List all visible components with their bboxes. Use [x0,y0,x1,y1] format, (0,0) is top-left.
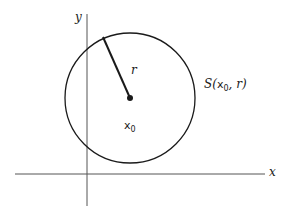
diagram-svg [0,0,288,216]
center-label-sub: 0 [131,125,136,134]
center-label: x0 [124,116,136,132]
circle-label: S(x0, r) [204,78,247,90]
center-label-var: x [124,119,131,132]
circle-label-suffix: , r) [229,77,247,91]
radius-label: r [131,64,137,76]
circle-label-prefix: S( [204,77,217,91]
radius-line [103,37,130,98]
circle-label-sub: 0 [223,84,228,93]
x-axis-label: x [269,166,276,178]
center-point [127,95,133,101]
y-axis-label: y [75,11,82,23]
diagram-canvas: y x r x0 S(x0, r) [0,0,288,216]
